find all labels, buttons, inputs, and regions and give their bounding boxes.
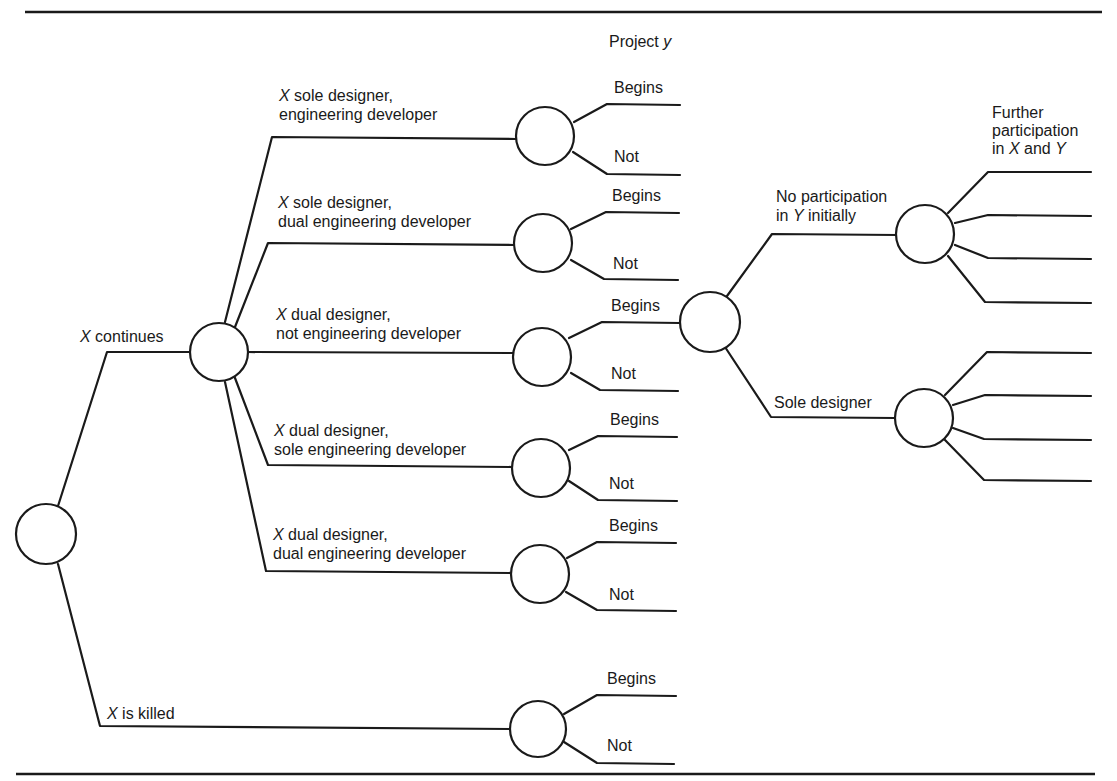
label-not-3: Not <box>611 364 636 383</box>
label-not-5: Not <box>609 585 634 604</box>
label-not-2: Not <box>613 254 638 273</box>
var-x: X <box>279 87 290 104</box>
var-y: Y <box>793 207 804 224</box>
title-text: Project <box>609 33 663 50</box>
label-x-is-killed: X is killed <box>107 704 175 723</box>
option-1-node <box>516 107 574 165</box>
no-participation-line1: No participation <box>776 188 887 205</box>
label-not-4: Not <box>609 474 634 493</box>
option-line2: engineering developer <box>279 106 437 123</box>
continues-text: continues <box>91 328 164 345</box>
further-line2: participation <box>992 122 1078 139</box>
label-option-1: X sole designer, engineering developer <box>279 86 437 124</box>
option-line1: sole designer, <box>290 87 393 104</box>
var-x: X <box>276 306 287 323</box>
outcome-begins-3 <box>569 322 680 338</box>
label-begins-1: Begins <box>614 78 663 97</box>
label-begins-5: Begins <box>609 516 658 535</box>
option-4-node <box>512 439 570 497</box>
further-leaf-7 <box>953 428 1091 440</box>
var-x: X <box>274 422 285 439</box>
option-5-node <box>511 545 569 603</box>
var-x: X <box>80 328 91 345</box>
label-option-5: X dual designer, dual engineering develo… <box>273 525 466 563</box>
label-begins-killed: Begins <box>607 669 656 688</box>
label-further-participation: Further participation in X and Y <box>992 104 1078 158</box>
label-not-killed: Not <box>607 736 632 755</box>
option-line1: dual designer, <box>284 526 388 543</box>
outcome-begins-1 <box>574 104 680 122</box>
var-x: X <box>273 526 284 543</box>
label-x-continues: X continues <box>80 327 164 346</box>
outcome-begins-5 <box>567 542 676 558</box>
further-prefix: in <box>992 140 1009 157</box>
var-y: Y <box>1055 140 1066 157</box>
further-leaf-8 <box>945 440 1091 481</box>
no-participation-prefix: in <box>776 207 793 224</box>
killed-text: is killed <box>118 705 175 722</box>
var-x: X <box>107 705 118 722</box>
continues-node <box>190 323 248 381</box>
further-leaf-2 <box>955 215 1091 223</box>
label-not-1: Not <box>614 147 639 166</box>
diagram-title: Project y <box>609 32 671 51</box>
killed-node <box>510 701 566 757</box>
outcome-begins-killed <box>564 695 676 714</box>
project-y-node <box>680 292 740 352</box>
further-leaf-5 <box>945 352 1091 395</box>
further-leaf-3 <box>955 245 1091 259</box>
outcome-begins-2 <box>571 212 679 229</box>
branch-no-participation <box>727 234 898 296</box>
outcome-begins-4 <box>569 436 677 450</box>
branch-option-3 <box>248 352 513 353</box>
option-line2: dual engineering developer <box>278 213 471 230</box>
option-line1: dual designer, <box>285 422 389 439</box>
no-participation-suffix: initially <box>804 207 856 224</box>
label-begins-2: Begins <box>612 186 661 205</box>
label-begins-4: Begins <box>610 410 659 429</box>
branch-continues <box>58 352 190 506</box>
option-line2: dual engineering developer <box>273 545 466 562</box>
label-sole-designer: Sole designer <box>774 393 872 412</box>
option-line1: dual designer, <box>287 306 391 323</box>
title-var: y <box>663 33 671 50</box>
no-participation-node <box>896 205 954 263</box>
further-leaf-4 <box>948 256 1091 303</box>
var-x: X <box>278 194 289 211</box>
sole-designer-node <box>895 389 953 447</box>
option-line2: sole engineering developer <box>274 441 466 458</box>
option-3-node <box>513 328 571 386</box>
label-option-4: X dual designer, sole engineering develo… <box>274 421 466 459</box>
root-chance-node <box>16 504 76 564</box>
further-leaf-6 <box>953 395 1091 405</box>
option-line2: not engineering developer <box>276 325 461 342</box>
further-line1: Further <box>992 104 1044 121</box>
label-begins-3: Begins <box>611 296 660 315</box>
label-no-participation: No participation in Y initially <box>776 187 887 225</box>
further-leaf-1 <box>948 172 1091 213</box>
further-mid: and <box>1020 140 1056 157</box>
var-x: X <box>1009 140 1020 157</box>
option-2-node <box>514 214 572 272</box>
option-line1: sole designer, <box>289 194 392 211</box>
decision-tree-graphic <box>0 0 1117 781</box>
label-option-3: X dual designer, not engineering develop… <box>276 305 461 343</box>
label-option-2: X sole designer, dual engineering develo… <box>278 193 471 231</box>
